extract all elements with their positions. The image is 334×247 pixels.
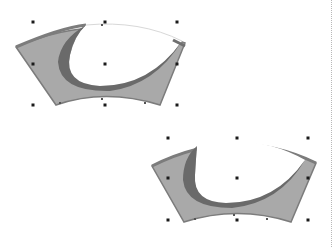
- page-boundary-line: [331, 0, 332, 247]
- drawing-canvas[interactable]: [0, 0, 334, 247]
- arc-shape-bottom[interactable]: [152, 141, 316, 222]
- arc-shape-top[interactable]: [16, 24, 185, 105]
